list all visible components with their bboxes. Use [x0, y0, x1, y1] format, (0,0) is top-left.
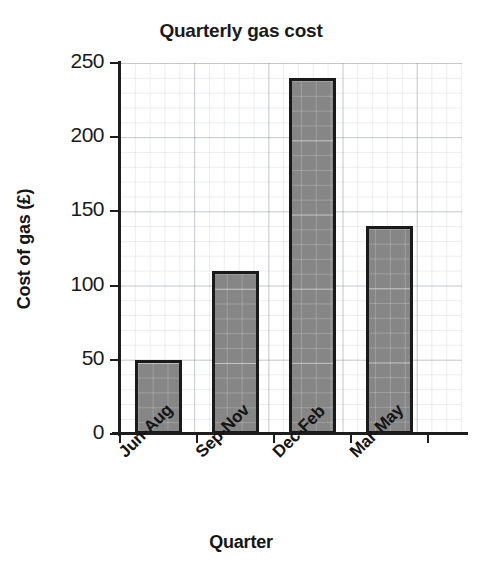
x-axis-title: Quarter	[0, 532, 482, 553]
y-axis-tick-label: 200	[36, 123, 104, 147]
y-axis-tick	[110, 285, 120, 287]
y-axis-tick-label: 250	[36, 49, 104, 73]
y-axis-line	[118, 61, 121, 436]
plot-area	[120, 63, 462, 434]
y-axis-tick-labels: 050100150200250	[32, 0, 104, 563]
bar-chart: Quarterly gas cost Cost of gas (£) 05010…	[0, 0, 482, 563]
y-axis-tick	[110, 359, 120, 361]
bar-dec-feb	[289, 78, 336, 434]
y-axis-tick	[110, 136, 120, 138]
y-axis-tick	[110, 210, 120, 212]
y-axis-tick-label: 150	[36, 197, 104, 221]
y-axis-tick-label: 50	[36, 346, 104, 370]
y-axis-tick-label: 0	[36, 420, 104, 444]
y-axis-tick	[110, 62, 120, 64]
x-axis-tick	[427, 432, 429, 443]
y-axis-tick-label: 100	[36, 272, 104, 296]
